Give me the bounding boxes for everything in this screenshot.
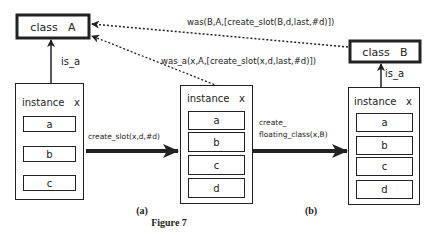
panel-a-label: (a) [136,205,148,217]
create-floating-class-transition: create_ floating_class(x,B) [253,118,347,151]
svg-text:b: b [381,140,387,151]
slot-b: b [357,137,413,155]
class-b-label: class B [362,46,407,59]
svg-text:b: b [46,149,52,160]
panel-b-label: (b) [305,205,317,217]
figure-caption: Figure 7 [151,217,187,228]
slot-c: c [357,158,413,176]
svg-text:a: a [213,115,219,126]
slot-d: d [357,181,413,199]
class-a-node: class A [17,15,89,38]
instance-title: instance x [22,97,80,108]
svg-text:a: a [46,119,52,130]
class-b-node: class B [350,41,420,62]
was-dotted-arrow: was(B,A,[create_slot(B,d,last,#d)]) [92,17,348,47]
instance-title: instance x [187,93,245,104]
instance-x-floating: instance x a b c d [349,88,420,205]
svg-text:c: c [214,160,220,171]
create-slot-label: create_slot(x,d,#d) [88,132,160,141]
was-a-dotted-arrow: was_a(x,A,[create_slot(x,d,last,#d)]) [92,36,316,86]
svg-text:a: a [381,117,387,128]
was-a-label: was_a(x,A,[create_slot(x,d,last,#d)]) [161,56,316,66]
slot-a: a [189,112,245,130]
slot-b: b [189,133,245,152]
create-slot-transition: create_slot(x,d,#d) [86,132,178,151]
slot-c: c [24,176,76,191]
figure-7-diagram: class A class B is_a is_a was(B,A,[creat… [0,0,434,237]
is-a-arrow-left: is_a [51,40,80,83]
slot-b: b [24,147,76,162]
svg-text:d: d [213,183,219,194]
slot-a: a [357,114,413,132]
svg-text:c: c [47,178,53,189]
create-floating-label-line1: create_ [259,118,287,127]
was-label: was(B,A,[create_slot(B,d,last,#d)]) [187,17,334,27]
slot-c: c [189,156,245,175]
slot-d: d [189,179,245,198]
instance-title: instance x [354,96,412,107]
instance-x-before: instance x a b c [16,84,84,200]
class-a-label: class A [30,21,76,34]
is-a-arrow-right: is_a [381,64,404,87]
svg-text:b: b [213,137,219,148]
is-a-label-right: is_a [385,68,404,80]
slot-a: a [24,117,76,132]
svg-text:d: d [381,184,387,195]
create-floating-label-line2: floating_class(x,B) [259,130,328,139]
is-a-label-left: is_a [61,56,80,68]
svg-text:c: c [382,161,388,172]
instance-x-after-slot: instance x a b c d [181,86,253,204]
